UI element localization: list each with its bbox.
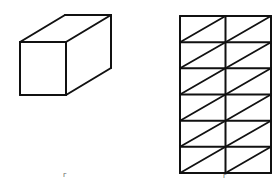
grid-cell-diagonal: [226, 147, 272, 173]
cuboid-edge: [66, 68, 111, 95]
cuboid-figure: [20, 15, 111, 95]
grid-cell-diagonal: [180, 42, 226, 68]
figure-caption-mark-left: г: [63, 172, 67, 179]
triangulated-grid-figure: [180, 16, 271, 173]
diagram-svg: [0, 0, 278, 181]
grid-cell-diagonal: [226, 95, 272, 121]
grid-cell-diagonal: [226, 16, 272, 42]
grid-cell-diagonal: [180, 147, 226, 173]
grid-cell-diagonal: [180, 16, 226, 42]
cuboid-edge: [66, 15, 111, 42]
grid-cell-diagonal: [180, 68, 226, 94]
grid-cell-diagonal: [226, 121, 272, 147]
grid-cell-diagonal: [226, 42, 272, 68]
grid-cell-diagonal: [180, 121, 226, 147]
grid-cell-diagonal: [226, 68, 272, 94]
diagram-canvas: г г: [0, 0, 278, 181]
figure-caption-mark-right: г: [223, 173, 227, 180]
grid-cell-diagonal: [180, 95, 226, 121]
cuboid-edge: [20, 15, 65, 42]
